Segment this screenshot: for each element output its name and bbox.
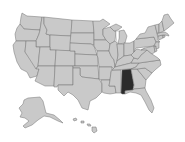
- state-montana[interactable]: [44, 17, 72, 36]
- state-hawaii-oahu[interactable]: [81, 121, 84, 123]
- state-wyoming[interactable]: [50, 35, 71, 51]
- state-alaska[interactable]: [19, 97, 63, 128]
- state-north-dakota[interactable]: [71, 20, 94, 33]
- state-colorado[interactable]: [55, 50, 75, 66]
- state-kansas[interactable]: [75, 54, 98, 66]
- state-hawaii-kauai[interactable]: [73, 118, 77, 121]
- state-florida[interactable]: [125, 88, 154, 113]
- state-utah[interactable]: [38, 47, 56, 66]
- state-maine[interactable]: [162, 14, 174, 31]
- state-rhode-island[interactable]: [163, 35, 165, 38]
- state-hawaii-big-island[interactable]: [92, 127, 97, 133]
- us-states-map: [0, 0, 185, 142]
- state-arizona[interactable]: [35, 66, 55, 86]
- state-new-mexico[interactable]: [54, 66, 73, 87]
- state-hawaii-maui[interactable]: [87, 124, 91, 126]
- lake-michigan: [116, 31, 119, 43]
- state-michigan-lower[interactable]: [118, 30, 127, 44]
- state-washington[interactable]: [20, 13, 42, 30]
